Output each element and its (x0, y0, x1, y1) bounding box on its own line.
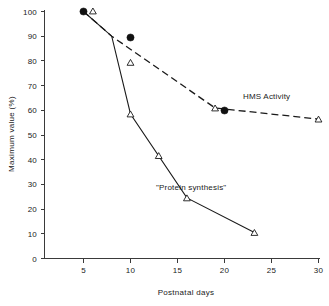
marker-open-triangle (127, 111, 134, 117)
y-axis-ticks (41, 12, 45, 259)
x-tick-label: 20 (220, 266, 230, 275)
x-axis-ticks (84, 259, 319, 264)
y-tick-label: 50 (28, 131, 38, 140)
protein-synthesis-line (84, 12, 255, 233)
marker-open-triangle (127, 59, 134, 65)
open-triangle-markers (90, 8, 322, 235)
y-tick-label: 90 (28, 32, 38, 41)
marker-open-triangle (184, 195, 191, 201)
y-tick-label: 30 (28, 180, 38, 189)
y-tick-label: 10 (28, 230, 38, 239)
y-tick-label: 70 (28, 82, 38, 91)
x-tick-label: 15 (173, 266, 183, 275)
y-tick-label: 40 (28, 156, 38, 165)
x-tick-label: 25 (267, 266, 277, 275)
y-axis-title: Maximum value (%) (7, 96, 16, 172)
marker-filled-circle (127, 34, 134, 41)
x-axis-title: Postnatal days (158, 288, 215, 297)
x-axis-tick-labels: 5 10 15 20 25 30 (81, 266, 323, 275)
annotation-protein-synthesis: "Protein synthesis" (156, 183, 226, 192)
y-tick-label: 80 (28, 57, 38, 66)
marker-open-triangle (251, 230, 258, 236)
axes (45, 10, 321, 259)
chart-figure: 100 90 80 70 60 50 40 30 20 10 0 5 10 15… (0, 0, 329, 306)
y-tick-label: 0 (32, 255, 37, 264)
x-tick-label: 10 (126, 266, 136, 275)
y-axis-tick-labels: 100 90 80 70 60 50 40 30 20 10 0 (23, 8, 37, 264)
series-protein-synthesis (84, 12, 255, 233)
marker-open-triangle (90, 8, 97, 14)
marker-filled-circle (221, 107, 228, 114)
y-tick-label: 20 (28, 205, 38, 214)
annotation-hms-activity: HMS Activity (243, 92, 290, 101)
y-tick-label: 100 (23, 8, 37, 17)
x-tick-label: 5 (81, 266, 86, 275)
y-tick-label: 60 (28, 106, 38, 115)
filled-circle-markers (80, 8, 228, 114)
line-chart: 100 90 80 70 60 50 40 30 20 10 0 5 10 15… (0, 0, 329, 306)
marker-filled-circle (80, 8, 87, 15)
x-tick-label: 30 (314, 266, 324, 275)
marker-open-triangle (155, 153, 162, 159)
